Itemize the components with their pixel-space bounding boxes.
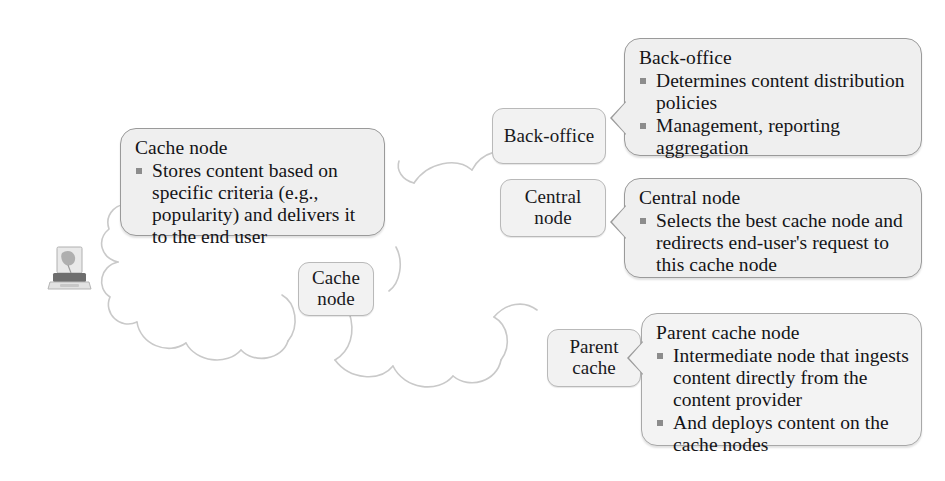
chip-label-line2: node [317,289,354,310]
chip-label-line1: Central [525,187,582,208]
chip-back-office[interactable]: Back-office [492,108,606,164]
callout-title: Cache node [135,137,372,159]
callout-title: Back-office [639,47,909,69]
callout-bullet-list: Determines content distribution policies… [639,70,909,158]
bullet-text: Selects the best cache node and redirect… [656,210,903,275]
bullet-square-icon [640,123,646,129]
list-item: Stores content based on specific criteri… [135,160,372,247]
list-item: Intermediate node that ingests content d… [656,345,909,410]
end-user-laptop-icon [47,243,93,295]
chip-label-line2: cache [572,358,616,379]
bullet-square-icon [136,168,142,174]
diagram-canvas: Cache node Stores content based on speci… [0,0,945,481]
bullet-text: Management, reporting aggregation [656,115,840,158]
bullet-square-icon [657,420,663,426]
chip-central-node[interactable]: Central node [500,179,606,237]
callout-title: Parent cache node [656,322,909,344]
callout-bullet-list: Intermediate node that ingests content d… [656,345,909,455]
bullet-square-icon [640,78,646,84]
bullet-text: Determines content distribution policies [656,70,905,113]
bullet-text: Intermediate node that ingests content d… [673,345,909,410]
bullet-square-icon [640,218,646,224]
callout-title: Central node [639,187,909,209]
central-node-callout: Central node Selects the best cache node… [624,178,922,278]
chip-label-line1: Cache [312,268,360,289]
list-item: Management, reporting aggregation [639,115,909,159]
callout-bullet-list: Stores content based on specific criteri… [135,160,372,247]
chip-label-line1: Parent [569,337,618,358]
back-office-callout: Back-office Determines content distribut… [624,38,922,156]
list-item: Selects the best cache node and redirect… [639,210,909,275]
bullet-text: And deploys content on the cache nodes [673,412,889,455]
chip-label-line2: node [534,208,571,229]
parent-cache-callout: Parent cache node Intermediate node that… [641,313,922,446]
callout-bullet-list: Selects the best cache node and redirect… [639,210,909,275]
chip-cache-node[interactable]: Cache node [298,262,374,316]
chip-label-line1: Back-office [504,126,594,147]
bullet-square-icon [657,353,663,359]
list-item: And deploys content on the cache nodes [656,412,909,456]
cache-node-callout: Cache node Stores content based on speci… [120,128,385,236]
list-item: Determines content distribution policies [639,70,909,114]
bullet-text: Stores content based on specific criteri… [152,160,355,246]
